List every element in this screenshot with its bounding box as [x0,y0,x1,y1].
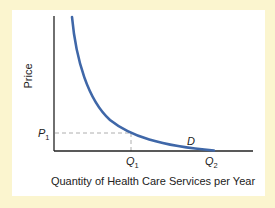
demand-curve-label: D [187,135,195,147]
q1-label: Q1 [126,155,139,170]
x-axis-label: Quantity of Health Care Services per Yea… [51,175,256,187]
demand-chart: Price Quantity of Health Care Services p… [0,0,275,208]
y-axis-label: Price [22,63,34,88]
demand-curve [72,17,214,151]
q2-label: Q2 [205,155,218,170]
p1-label: P1 [38,127,50,142]
